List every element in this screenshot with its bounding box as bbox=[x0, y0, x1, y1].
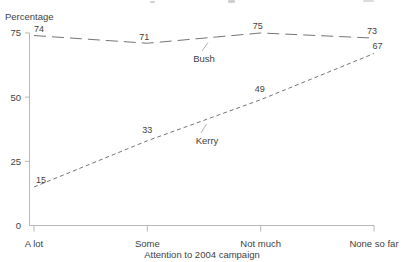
x-tick-label: None so far bbox=[349, 238, 398, 249]
data-label: 74 bbox=[34, 24, 44, 34]
y-tick-label: 25 bbox=[10, 156, 21, 167]
x-axis-title: Attention to 2004 campaign bbox=[144, 249, 260, 260]
leader-line bbox=[201, 124, 207, 133]
series-line-bush bbox=[34, 33, 374, 43]
series-label-bush: Bush bbox=[193, 53, 215, 64]
series-line-kerry bbox=[34, 54, 374, 187]
data-label: 67 bbox=[372, 41, 382, 51]
data-label: 15 bbox=[36, 175, 46, 185]
series-label-kerry: Kerry bbox=[196, 135, 219, 146]
x-tick-label: Some bbox=[135, 238, 160, 249]
data-label: 75 bbox=[253, 21, 263, 31]
y-tick-label: 0 bbox=[16, 220, 21, 231]
y-tick-label: 75 bbox=[10, 27, 21, 38]
data-label: 33 bbox=[142, 125, 152, 135]
y-tick-label: 50 bbox=[10, 92, 21, 103]
x-tick-label: A lot bbox=[25, 238, 44, 249]
data-label: 73 bbox=[367, 26, 377, 36]
leader-line bbox=[202, 43, 208, 52]
plot-area: 0255075A lotSomeNot muchNone so far74717… bbox=[0, 0, 401, 262]
data-label: 71 bbox=[139, 32, 149, 42]
data-label: 49 bbox=[255, 84, 265, 94]
x-tick-label: Not much bbox=[240, 238, 281, 249]
line-chart: Percentage 0255075A lotSomeNot muchNone … bbox=[0, 0, 401, 262]
